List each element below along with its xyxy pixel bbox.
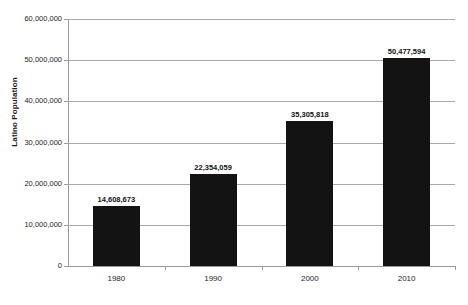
y-tick-mark xyxy=(64,225,68,226)
x-axis-tick-label: 1980 xyxy=(86,274,146,283)
y-axis-tick-label: 50,000,000 xyxy=(4,55,62,64)
bar xyxy=(286,121,333,266)
x-tick-mark xyxy=(262,266,263,270)
y-tick-mark xyxy=(64,60,68,61)
bar-value-label: 14,608,673 xyxy=(81,195,151,204)
bar-chart: Latino Population 010,000,00020,000,0003… xyxy=(0,0,468,305)
y-axis-tick-label: 10,000,000 xyxy=(4,220,62,229)
y-axis-tick-label: 20,000,000 xyxy=(4,179,62,188)
y-tick-mark xyxy=(64,101,68,102)
y-tick-mark xyxy=(64,19,68,20)
x-tick-mark xyxy=(455,266,456,270)
gridline xyxy=(68,19,455,20)
y-axis-tick-label: 30,000,000 xyxy=(4,138,62,147)
x-axis-tick-label: 2010 xyxy=(377,274,437,283)
x-tick-mark xyxy=(165,266,166,270)
y-axis-title: Latino Population xyxy=(10,62,24,162)
y-axis-tick-label: 0 xyxy=(4,261,62,270)
bar xyxy=(383,58,430,266)
y-axis-tick-label: 60,000,000 xyxy=(4,14,62,23)
bar xyxy=(190,174,237,266)
bar xyxy=(93,206,140,266)
y-tick-mark xyxy=(64,143,68,144)
bar-value-label: 22,354,059 xyxy=(178,163,248,172)
bar-value-label: 35,305,818 xyxy=(275,110,345,119)
y-tick-mark xyxy=(64,184,68,185)
bar-value-label: 50,477,594 xyxy=(372,47,442,56)
x-axis-tick-label: 1990 xyxy=(183,274,243,283)
x-axis-tick-label: 2000 xyxy=(280,274,340,283)
y-tick-mark xyxy=(64,266,68,267)
x-tick-mark xyxy=(358,266,359,270)
y-axis-tick-label: 40,000,000 xyxy=(4,96,62,105)
